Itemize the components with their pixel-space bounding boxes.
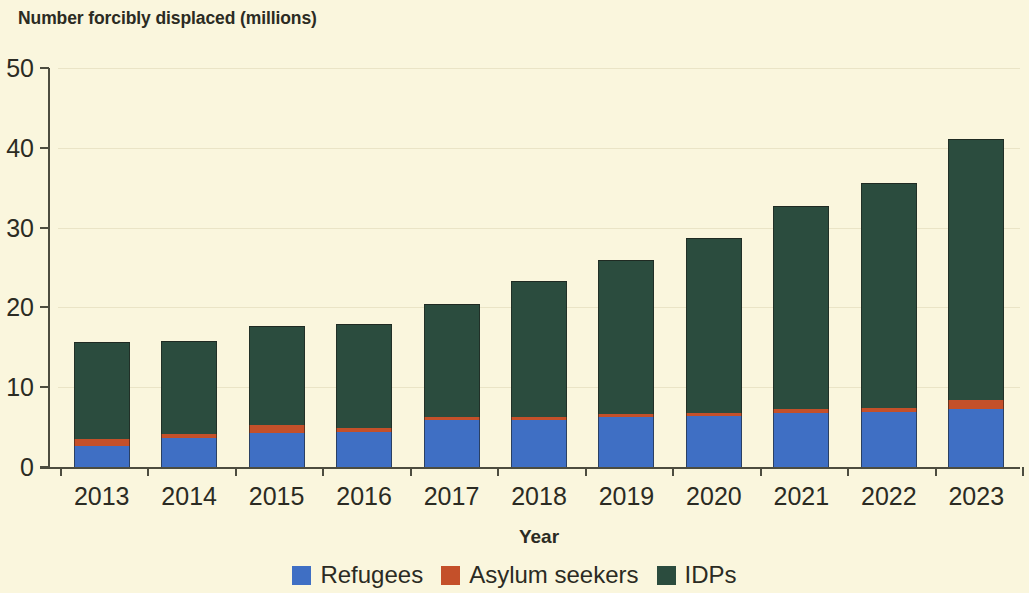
bar-segment-asylum-seekers[interactable] — [161, 434, 217, 438]
legend-label: IDPs — [685, 563, 737, 587]
bar-segment-asylum-seekers[interactable] — [686, 413, 742, 416]
x-axis-tick — [935, 467, 937, 476]
y-axis-tick — [40, 147, 49, 149]
legend-item-refugees[interactable]: Refugees — [292, 563, 423, 587]
legend-swatch-icon — [441, 566, 460, 585]
bar-segment-refugees[interactable] — [598, 417, 654, 467]
bar-segment-refugees[interactable] — [336, 432, 392, 467]
bar-segment-idps[interactable] — [424, 304, 480, 417]
bar-stack-2020[interactable] — [686, 238, 742, 467]
y-axis-tick-label: 0 — [20, 453, 34, 482]
chart-container: Number forcibly displaced (millions) 010… — [0, 0, 1029, 593]
x-axis-tick-label: 2023 — [916, 482, 1029, 511]
x-axis-tick — [585, 467, 587, 476]
bar-segment-idps[interactable] — [948, 139, 1004, 400]
bar-segment-refugees[interactable] — [249, 433, 305, 467]
bar-stack-2014[interactable] — [161, 341, 217, 467]
bar-segment-asylum-seekers[interactable] — [249, 425, 305, 433]
bar-segment-idps[interactable] — [74, 342, 130, 439]
bar-segment-asylum-seekers[interactable] — [511, 417, 567, 420]
x-axis-tick — [672, 467, 674, 476]
bar-segment-idps[interactable] — [161, 341, 217, 434]
x-axis-line — [40, 467, 1020, 469]
bar-stack-2015[interactable] — [249, 326, 305, 467]
bar-stack-2022[interactable] — [861, 183, 917, 467]
bar-segment-refugees[interactable] — [74, 446, 130, 467]
y-axis-line — [48, 68, 50, 469]
bar-stack-2023[interactable] — [948, 139, 1004, 467]
bar-segment-refugees[interactable] — [424, 420, 480, 467]
x-axis-tick — [235, 467, 237, 476]
legend-label: Asylum seekers — [469, 563, 638, 587]
bar-segment-refugees[interactable] — [511, 420, 567, 467]
x-axis-tick — [322, 467, 324, 476]
legend-item-asylum-seekers[interactable]: Asylum seekers — [441, 563, 638, 587]
bar-stack-2017[interactable] — [424, 304, 480, 467]
x-axis-tick — [410, 467, 412, 476]
x-axis-tick — [760, 467, 762, 476]
bar-segment-refugees[interactable] — [861, 412, 917, 467]
y-axis-tick-label: 30 — [6, 213, 34, 242]
y-axis-tick — [40, 227, 49, 229]
bar-stack-2021[interactable] — [773, 206, 829, 467]
bar-stack-2018[interactable] — [511, 281, 567, 467]
x-axis-title: Year — [58, 526, 1020, 548]
bar-stack-2016[interactable] — [336, 324, 392, 467]
bar-segment-asylum-seekers[interactable] — [861, 408, 917, 412]
bar-series-group — [58, 68, 1020, 467]
chart-legend: RefugeesAsylum seekersIDPs — [0, 563, 1029, 587]
bar-segment-idps[interactable] — [598, 260, 654, 413]
y-axis-tick-label: 20 — [6, 293, 34, 322]
x-axis-tick — [1022, 467, 1024, 476]
y-axis-tick — [40, 386, 49, 388]
bar-segment-refugees[interactable] — [948, 409, 1004, 467]
bar-segment-idps[interactable] — [336, 324, 392, 428]
y-axis-tick — [40, 466, 49, 468]
bar-segment-idps[interactable] — [861, 183, 917, 408]
legend-swatch-icon — [657, 566, 676, 585]
bar-segment-refugees[interactable] — [161, 438, 217, 467]
x-axis-tick — [147, 467, 149, 476]
bar-segment-asylum-seekers[interactable] — [74, 439, 130, 446]
y-axis-tick-label: 40 — [6, 133, 34, 162]
x-axis-tick — [497, 467, 499, 476]
bar-segment-refugees[interactable] — [773, 413, 829, 467]
bar-segment-asylum-seekers[interactable] — [773, 409, 829, 413]
bar-segment-asylum-seekers[interactable] — [336, 428, 392, 432]
bar-stack-2013[interactable] — [74, 342, 130, 467]
bar-stack-2019[interactable] — [598, 260, 654, 467]
x-axis-tick — [60, 467, 62, 476]
y-axis-tick-label: 50 — [6, 54, 34, 83]
chart-title: Number forcibly displaced (millions) — [18, 8, 317, 29]
bar-segment-asylum-seekers[interactable] — [424, 417, 480, 420]
bar-segment-refugees[interactable] — [686, 416, 742, 467]
bar-segment-idps[interactable] — [686, 238, 742, 413]
y-axis-tick — [40, 67, 49, 69]
bar-segment-idps[interactable] — [511, 281, 567, 417]
legend-swatch-icon — [292, 566, 311, 585]
bar-segment-idps[interactable] — [249, 326, 305, 425]
y-axis-tick — [40, 306, 49, 308]
bar-segment-asylum-seekers[interactable] — [948, 400, 1004, 409]
x-axis-tick — [847, 467, 849, 476]
bar-segment-idps[interactable] — [773, 206, 829, 409]
bar-segment-asylum-seekers[interactable] — [598, 414, 654, 417]
legend-label: Refugees — [320, 563, 423, 587]
plot-area: 01020304050 2013201420152016201720182019… — [58, 68, 1020, 467]
legend-item-idps[interactable]: IDPs — [657, 563, 737, 587]
y-axis-tick-label: 10 — [6, 373, 34, 402]
